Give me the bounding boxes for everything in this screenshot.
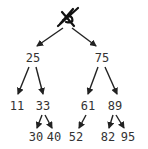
edge-arrow-n75-n89 (105, 67, 117, 94)
tree-node-25: 25 (26, 51, 40, 65)
tree-node-40: 40 (47, 130, 61, 144)
edge-arrow-n33-n40 (45, 115, 52, 128)
edge-arrow-n89-n82 (109, 115, 113, 128)
edge-arrow-n75-n61 (88, 67, 98, 94)
cross-out-scribble-icon (58, 8, 78, 26)
tree-node-52: 52 (69, 130, 83, 144)
tree-nodes: 2575113361893040528295 (10, 51, 135, 144)
edge-arrow-n61-n52 (79, 115, 86, 128)
edge-arrow-n25-n33 (36, 67, 43, 94)
tree-node-82: 82 (101, 130, 115, 144)
tree-node-61: 61 (81, 99, 95, 113)
deleted-root-node (58, 8, 78, 26)
edge-arrow-n89-n95 (116, 115, 124, 128)
tree-node-75: 75 (95, 51, 109, 65)
tree-node-33: 33 (36, 99, 50, 113)
edge-arrow-n33-n30 (37, 115, 42, 128)
tree-diagram: 2575113361893040528295 (0, 0, 148, 149)
tree-node-89: 89 (108, 99, 122, 113)
edge-arrow-n25-n11 (18, 67, 29, 94)
edge-arrow-root-n25 (37, 28, 63, 46)
edge-arrow-root-n75 (72, 28, 96, 46)
tree-node-11: 11 (10, 99, 24, 113)
tree-edges (18, 28, 124, 128)
tree-node-30: 30 (29, 130, 43, 144)
tree-node-95: 95 (121, 130, 135, 144)
